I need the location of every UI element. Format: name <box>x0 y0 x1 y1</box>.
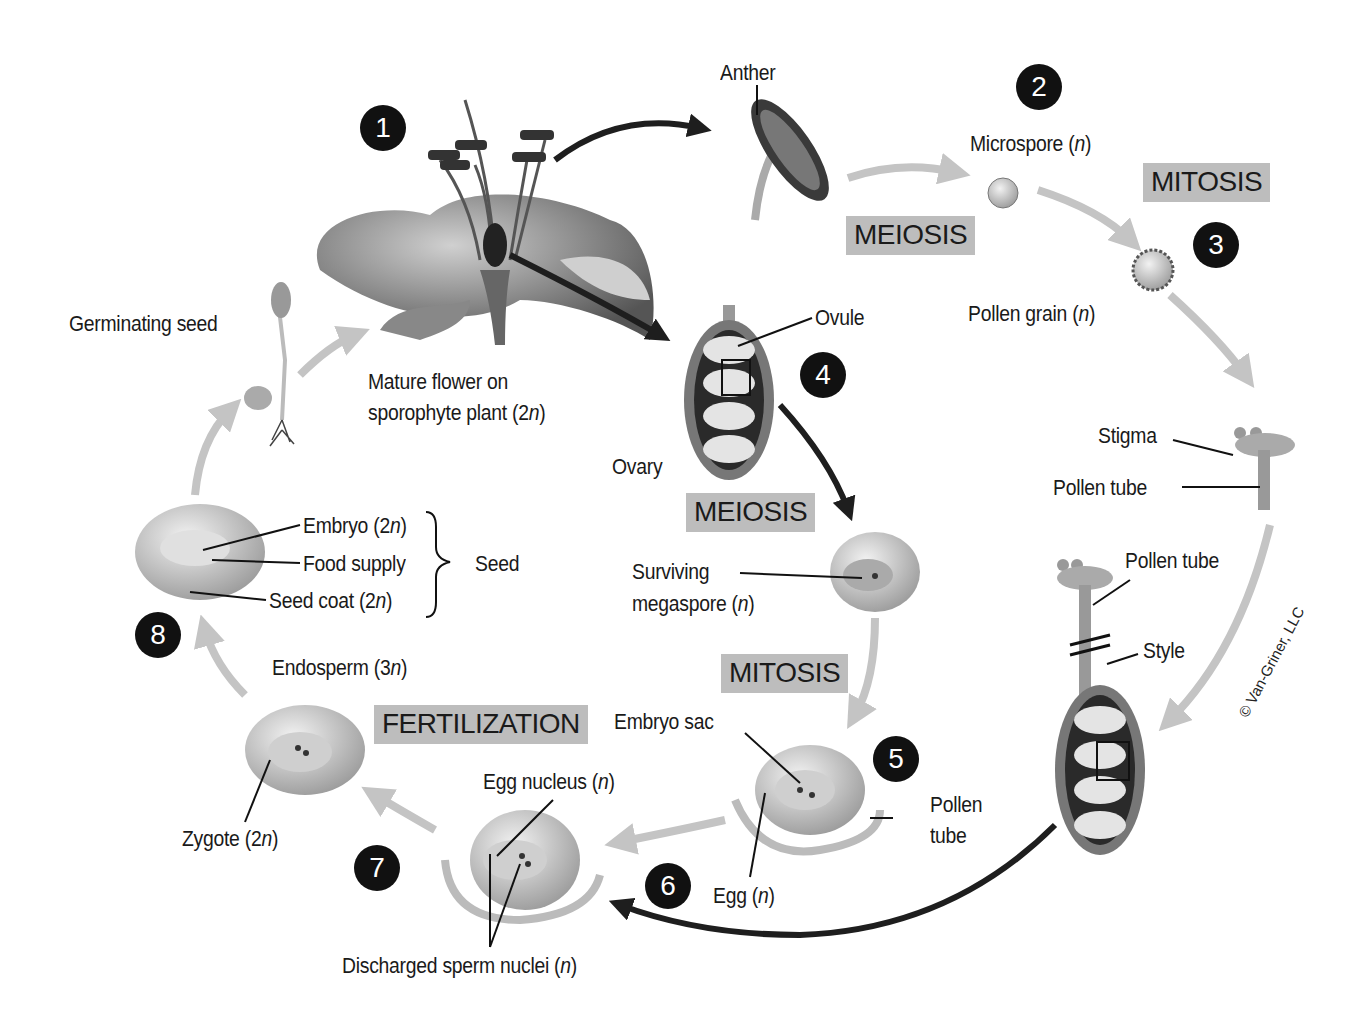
step-number: 6 <box>660 870 676 902</box>
label-mature-flower-line2: sporophyte plant (2n) <box>368 400 545 425</box>
pistil-illustration <box>1055 559 1145 855</box>
life-cycle-diagram: 1 2 3 4 5 6 7 8 MEIOSIS MITOSIS MEIOSIS … <box>0 0 1359 1023</box>
label-sperm-nuclei: Discharged sperm nuclei (n) <box>342 953 577 978</box>
ploidy-n: n <box>738 591 749 616</box>
ploidy-n: n <box>261 826 272 851</box>
label-egg-nucleus: Egg nucleus (n) <box>483 769 615 794</box>
label-text: sporophyte plant (2 <box>368 400 529 425</box>
step-badge-8: 8 <box>135 612 181 658</box>
stigma-illustration <box>1234 427 1295 510</box>
ploidy-n: n <box>598 769 609 794</box>
label-text: ) <box>539 400 545 425</box>
step-badge-5: 5 <box>873 736 919 782</box>
label-surviving-line2: megaspore (n) <box>632 591 754 616</box>
label-egg: Egg (n) <box>713 883 775 908</box>
step-number: 5 <box>888 743 904 775</box>
ploidy-n: n <box>1074 131 1085 156</box>
anther-illustration <box>738 88 843 220</box>
germinating-seed-illustration <box>244 282 294 446</box>
process-meiosis-mid: MEIOSIS <box>686 493 815 532</box>
label-seed: Seed <box>475 551 519 576</box>
label-text: ) <box>571 953 577 978</box>
label-text: Zygote (2 <box>182 826 261 851</box>
label-pollen-tube-ovule-line2: tube <box>930 823 967 848</box>
ploidy-n: n <box>1078 301 1089 326</box>
pollen-grain-illustration <box>1133 250 1173 290</box>
label-microspore: Microspore (n) <box>970 131 1091 156</box>
label-text: ) <box>608 769 614 794</box>
label-text: Seed coat (2 <box>269 588 376 613</box>
step-number: 1 <box>375 112 391 144</box>
label-text: ) <box>1085 131 1091 156</box>
seed-illustration <box>135 504 265 600</box>
step-number: 7 <box>369 852 385 884</box>
step-number: 8 <box>150 619 166 651</box>
label-text: Endosperm (3 <box>272 655 390 680</box>
label-text: ) <box>272 826 278 851</box>
label-ovary: Ovary <box>612 454 662 479</box>
step-number: 2 <box>1031 71 1047 103</box>
label-text: ) <box>768 883 774 908</box>
label-pollen-tube-ovule-line1: Pollen <box>930 792 982 817</box>
step-number: 3 <box>1208 229 1224 261</box>
label-text: ) <box>748 591 754 616</box>
step-badge-3: 3 <box>1193 222 1239 268</box>
step-badge-4: 4 <box>800 352 846 398</box>
label-text: Embryo (2 <box>303 513 390 538</box>
ploidy-n: n <box>560 953 571 978</box>
label-endosperm: Endosperm (3n) <box>272 655 407 680</box>
label-text: ) <box>386 588 392 613</box>
label-embryo: Embryo (2n) <box>303 513 407 538</box>
ovary-illustration <box>684 305 774 480</box>
label-anther: Anther <box>720 60 775 85</box>
label-text: Egg ( <box>713 883 758 908</box>
ploidy-n: n <box>390 655 401 680</box>
label-text: Pollen grain ( <box>968 301 1078 326</box>
fertilization-ovule-illustration <box>445 810 600 920</box>
microspore-illustration <box>988 178 1018 208</box>
megaspore-ovule-illustration <box>830 532 920 612</box>
label-food-supply: Food supply <box>303 551 406 576</box>
label-germinating-seed: Germinating seed <box>69 311 218 336</box>
label-surviving-line1: Surviving <box>632 559 709 584</box>
label-zygote: Zygote (2n) <box>182 826 278 851</box>
step-badge-2: 2 <box>1016 64 1062 110</box>
label-stigma: Stigma <box>1098 423 1157 448</box>
ploidy-n: n <box>390 513 401 538</box>
ploidy-n: n <box>758 883 769 908</box>
label-text: megaspore ( <box>632 591 738 616</box>
ploidy-n: n <box>529 400 540 425</box>
step-number: 4 <box>815 359 831 391</box>
process-mitosis-top: MITOSIS <box>1143 163 1270 202</box>
label-pollen-grain: Pollen grain (n) <box>968 301 1095 326</box>
process-fertilization: FERTILIZATION <box>374 705 588 744</box>
label-text: Microspore ( <box>970 131 1074 156</box>
label-style: Style <box>1143 638 1185 663</box>
step-badge-7: 7 <box>354 845 400 891</box>
label-text: Egg nucleus ( <box>483 769 598 794</box>
step-badge-6: 6 <box>645 863 691 909</box>
label-mature-flower-line1: Mature flower on <box>368 369 508 394</box>
label-seed-coat: Seed coat (2n) <box>269 588 392 613</box>
label-text: Discharged sperm nuclei ( <box>342 953 560 978</box>
ploidy-n: n <box>376 588 387 613</box>
process-mitosis-mid: MITOSIS <box>721 654 848 693</box>
label-ovule: Ovule <box>815 305 864 330</box>
label-pollen-tube-stigma: Pollen tube <box>1053 475 1147 500</box>
label-text: ) <box>400 513 406 538</box>
label-embryo-sac: Embryo sac <box>614 709 714 734</box>
process-meiosis-top: MEIOSIS <box>846 216 975 255</box>
label-text: ) <box>401 655 407 680</box>
label-pollen-tube-pistil: Pollen tube <box>1125 548 1219 573</box>
label-text: ) <box>1089 301 1095 326</box>
zygote-ovule-illustration <box>245 705 365 795</box>
step-badge-1: 1 <box>360 105 406 151</box>
